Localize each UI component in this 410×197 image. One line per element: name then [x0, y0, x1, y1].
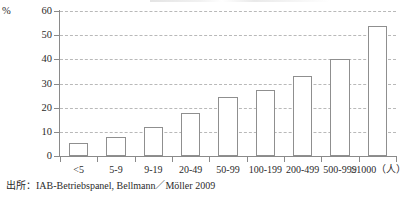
x-tick-mark-5: [247, 156, 248, 162]
y-tick-mark-30: [54, 84, 60, 85]
bar-20-49: [181, 113, 200, 157]
y-tick-mark-20: [54, 108, 60, 109]
x-tick-mark-0: [60, 156, 61, 162]
x-tick-mark-4: [209, 156, 210, 162]
y-tick-label-20: 20: [12, 103, 52, 114]
y-tick-label-30: 30: [12, 79, 52, 90]
x-tick-mark-3: [172, 156, 173, 162]
bar-50-99: [218, 97, 237, 156]
x-tick-mark-8: [359, 156, 360, 162]
bar-9-19: [144, 127, 163, 156]
plot-area: [60, 11, 396, 156]
bar-<5: [69, 143, 88, 156]
y-tick-label-50: 50: [12, 30, 52, 41]
y-tick-label-60: 60: [12, 6, 52, 17]
x-tick-label-8: ≥1000（人）: [351, 164, 404, 175]
gridline-50: [60, 35, 396, 36]
y-tick-mark-10: [54, 132, 60, 133]
bar-≥1000（人）: [368, 26, 387, 157]
top-edge-artifact: [150, 0, 330, 2]
y-tick-mark-50: [54, 35, 60, 36]
bar-chart-figure: % 0102030405060 <55-99-1920-4950-99100-1…: [0, 0, 410, 197]
bar-500-999: [330, 59, 349, 156]
bar-5-9: [106, 137, 125, 156]
y-tick-label-10: 10: [12, 127, 52, 138]
x-tick-mark-1: [97, 156, 98, 162]
source-note: 出所：IAB-Betriebspanel, Bellmann／Möller 20…: [6, 180, 215, 192]
bar-100-199: [256, 90, 275, 156]
x-axis-line: [59, 156, 397, 157]
y-tick-label-40: 40: [12, 54, 52, 65]
bar-200-499: [293, 76, 312, 156]
y-tick-mark-40: [54, 59, 60, 60]
x-tick-mark-9: [396, 156, 397, 162]
x-tick-mark-6: [284, 156, 285, 162]
x-tick-mark-7: [321, 156, 322, 162]
y-axis-unit-label: %: [2, 6, 11, 17]
y-tick-label-0: 0: [12, 151, 52, 162]
x-tick-mark-2: [135, 156, 136, 162]
y-tick-mark-60: [54, 11, 60, 12]
gridline-60: [60, 11, 396, 12]
